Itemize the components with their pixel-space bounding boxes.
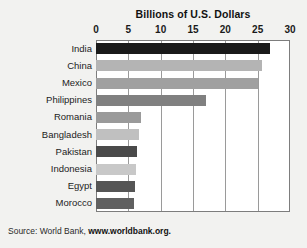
gridline-25 (258, 41, 259, 211)
x-tick-label-20: 20 (220, 24, 231, 36)
x-tick-label-0: 0 (93, 24, 99, 36)
x-tick-label-10: 10 (155, 24, 166, 36)
gridline-15 (193, 41, 194, 211)
gridline-20 (225, 41, 226, 211)
category-label-egypt: Egypt (0, 181, 92, 191)
x-tick-label-30: 30 (284, 24, 295, 36)
x-tick-label-15: 15 (187, 24, 198, 36)
source-prefix: Source: World Bank, (8, 226, 88, 236)
category-axis-labels: IndiaChinaMexicoPhilippinesRomaniaBangla… (0, 40, 92, 212)
category-label-philippines: Philippines (0, 95, 92, 105)
source-note: Source: World Bank, www.worldbank.org. (8, 226, 171, 236)
x-tick-label-5: 5 (126, 24, 132, 36)
plot-area (96, 40, 290, 212)
gridline-5 (128, 41, 129, 211)
chart-figure: Billions of U.S. Dollars 051015202530 In… (0, 0, 307, 248)
category-label-mexico: Mexico (0, 78, 92, 88)
category-label-morocco: Morocco (0, 198, 92, 208)
chart-title: Billions of U.S. Dollars (96, 8, 290, 20)
x-tick-label-25: 25 (252, 24, 263, 36)
category-label-pakistan: Pakistan (0, 147, 92, 157)
category-label-indonesia: Indonesia (0, 164, 92, 174)
category-label-china: China (0, 61, 92, 71)
source-url: www.worldbank.org. (88, 226, 171, 236)
category-label-romania: Romania (0, 112, 92, 122)
category-label-bangladesh: Bangladesh (0, 130, 92, 140)
gridline-10 (161, 41, 162, 211)
category-label-india: India (0, 44, 92, 54)
x-axis-tick-labels: 051015202530 (0, 24, 307, 38)
